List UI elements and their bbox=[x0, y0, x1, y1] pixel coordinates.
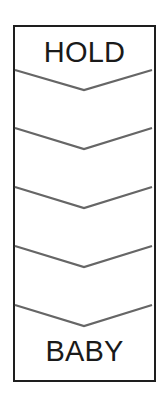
bottom-label: BABY bbox=[15, 337, 154, 366]
top-label: HOLD bbox=[15, 38, 154, 67]
diagram-frame bbox=[13, 25, 156, 382]
